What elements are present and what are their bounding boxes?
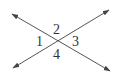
- intersecting-lines-graphic: [0, 0, 120, 78]
- angle-diagram: 1 2 3 4: [0, 0, 120, 78]
- angle-label-1: 1: [36, 35, 43, 49]
- angle-label-3: 3: [72, 35, 79, 49]
- angle-label-2: 2: [53, 23, 60, 37]
- angle-label-4: 4: [53, 48, 60, 62]
- line-b: [13, 10, 109, 68]
- line-a: [12, 14, 110, 71]
